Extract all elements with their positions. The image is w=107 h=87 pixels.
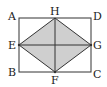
label-h: H	[50, 5, 60, 18]
label-b: B	[8, 66, 16, 79]
label-e: E	[8, 39, 16, 52]
label-g: G	[93, 39, 102, 52]
label-f: F	[51, 74, 59, 87]
label-c: C	[93, 68, 101, 81]
point-g-dot	[90, 44, 92, 46]
point-f-dot	[54, 71, 56, 73]
point-e-dot	[18, 44, 20, 46]
label-a: A	[7, 10, 17, 23]
label-d: D	[93, 10, 102, 23]
geometry-diagram: A H D E G B F C	[0, 0, 107, 87]
